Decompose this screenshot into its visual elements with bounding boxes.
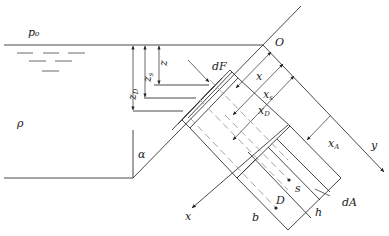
label-zs: zs — [141, 72, 155, 83]
label-dF: dF — [212, 60, 227, 73]
svg-text:zs: zs — [141, 72, 155, 83]
plate-edge-bottom — [190, 128, 237, 178]
x-axis-arrow — [192, 125, 288, 208]
label-D-point: D — [275, 194, 285, 207]
svg-text:xs: xs — [263, 88, 273, 102]
label-s-point: s — [295, 182, 301, 195]
label-p0: p₀ — [28, 26, 40, 39]
svg-text:xA: xA — [328, 137, 339, 151]
label-zD: zD — [126, 88, 140, 101]
x-dimension-guides — [233, 52, 331, 140]
label-dA: dA — [342, 196, 357, 209]
plate-side-strip — [172, 70, 238, 130]
label-rho: ρ — [16, 117, 24, 130]
diagram-canvas: p₀ ρ α O dF z zs zD x xs xD xA y x s D b… — [0, 0, 389, 236]
svg-text:zD: zD — [126, 88, 140, 101]
diagram-svg: p₀ ρ α O dF z zs zD x xs xD xA y x s D b… — [0, 0, 389, 236]
label-b: b — [252, 211, 259, 224]
label-h: h — [315, 206, 322, 219]
label-z: z — [157, 60, 170, 67]
label-origin: O — [275, 36, 284, 49]
water-surface-marks — [17, 53, 85, 71]
centroid-point — [287, 178, 290, 181]
label-x-distance: x — [256, 70, 263, 83]
label-x-axis: x — [185, 210, 192, 223]
label-y-axis: y — [370, 139, 378, 152]
dF-force-arrow — [188, 60, 209, 82]
inclined-wall-line — [133, 6, 301, 178]
label-alpha: α — [138, 148, 146, 161]
